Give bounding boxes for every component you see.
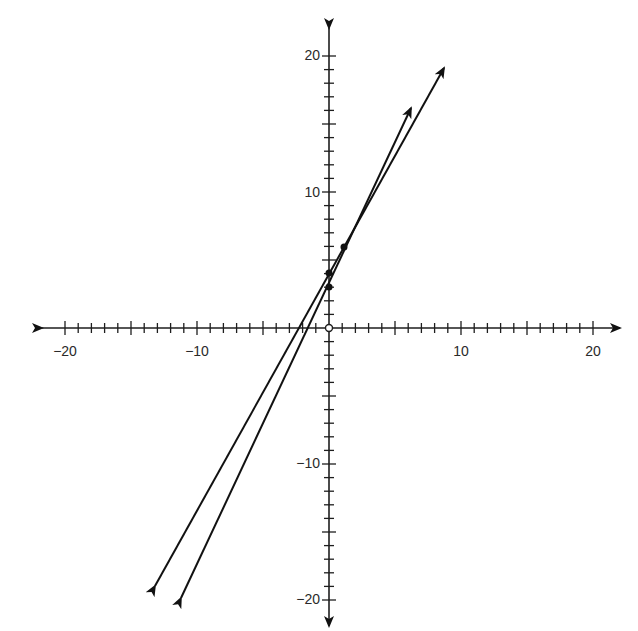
y-tick-label-neg20: −20 — [296, 591, 320, 607]
y-tick-label-20: 20 — [304, 47, 320, 63]
coordinate-plane: −20 −10 10 20 20 10 −10 −20 — [0, 0, 638, 631]
y-tick-label-neg10: −10 — [296, 455, 320, 471]
x-tick-label-neg10: −10 — [185, 343, 209, 359]
y-tick-label-10: 10 — [304, 184, 320, 200]
x-tick-label-20: 20 — [585, 343, 601, 359]
point-1-6 — [341, 244, 348, 251]
line-a-y-eq-2x-plus-4 — [155, 68, 444, 586]
point-0-3 — [326, 284, 333, 291]
point-0-4 — [326, 270, 333, 277]
line-b-y-eq-3x-plus-3 — [181, 108, 411, 598]
x-tick-label-neg20: −20 — [53, 343, 77, 359]
x-tick-label-10: 10 — [453, 343, 469, 359]
origin-open-circle — [326, 325, 333, 332]
